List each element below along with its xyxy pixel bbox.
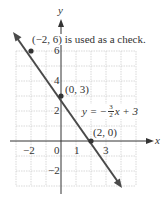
y-tick-4: 4 [54, 75, 60, 86]
point-label-0-3: (0, 3) [65, 84, 89, 95]
point-2-0 [88, 138, 93, 143]
x-tick-0: 0 [54, 145, 60, 156]
equation-right: x + 3 [115, 106, 138, 117]
point-neg2-6 [28, 48, 33, 53]
y-axis-arrow-icon [58, 19, 64, 27]
x-axis-arrow-icon [146, 138, 154, 144]
x-tick-3: 3 [103, 145, 109, 156]
equation-fraction: 3 2 [108, 104, 114, 119]
check-note-label: (−2, 6) is used as a check. [31, 34, 147, 45]
equation-denominator: 2 [109, 112, 113, 119]
graph-canvas [0, 0, 161, 201]
line-arrow-start-icon [13, 32, 22, 42]
y-tick-6: 6 [54, 45, 60, 56]
point-0-3 [58, 93, 63, 98]
equation-label: y = − 3 2 x + 3 [82, 104, 138, 119]
y-axis-label: y [58, 5, 63, 16]
x-tick-1: 1 [74, 145, 80, 156]
x-axis-label: x [155, 135, 160, 146]
y-tick-2: 2 [54, 105, 60, 116]
point-label-2-0: (2, 0) [93, 127, 117, 138]
x-tick-neg2: −2 [23, 145, 35, 156]
equation-left: y = − [82, 106, 107, 117]
y-tick-neg2: −2 [48, 165, 60, 176]
